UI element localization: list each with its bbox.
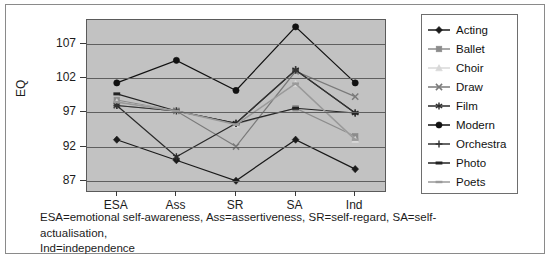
data-point-circle <box>173 57 179 63</box>
gridline <box>87 112 385 113</box>
series-layer <box>87 20 385 191</box>
legend-marker-star-icon <box>426 100 452 112</box>
y-tick-label: 97 <box>42 105 76 117</box>
legend-marker-plus-icon <box>426 138 452 150</box>
legend-label: Acting <box>456 24 488 36</box>
data-point-line <box>352 139 359 141</box>
legend: ActingBalletChoirDrawFilmModernOrchestra… <box>421 14 518 194</box>
legend-marker-triangle-icon <box>426 62 452 74</box>
gridline <box>87 44 385 45</box>
legend-marker-circle-icon <box>426 119 452 131</box>
caption-line-2: Ind=independence <box>40 241 470 257</box>
legend-item-ballet[interactable]: Ballet <box>426 39 517 58</box>
x-tick-mark <box>354 191 355 196</box>
legend-label: Choir <box>456 62 483 74</box>
data-point-line <box>436 180 443 182</box>
gridline <box>87 181 385 182</box>
series-orchestra <box>113 66 358 127</box>
chart-caption: ESA=emotional self-awareness, Ass=assert… <box>40 210 470 257</box>
data-point-cross <box>352 94 358 100</box>
data-point-dash <box>292 107 299 110</box>
data-point-diamond <box>436 26 443 33</box>
data-point-circle <box>233 87 239 93</box>
data-point-line <box>233 123 240 125</box>
legend-item-film[interactable]: Film <box>426 96 517 115</box>
x-tick-mark <box>116 191 117 196</box>
legend-item-orchestra[interactable]: Orchestra <box>426 134 517 153</box>
series-modern <box>114 24 359 94</box>
plot-area <box>86 19 386 192</box>
legend-marker-diamond-icon <box>426 24 452 36</box>
x-tick-mark <box>175 191 176 196</box>
data-point-diamond <box>292 136 299 143</box>
legend-label: Film <box>456 100 478 112</box>
gridline <box>87 147 385 148</box>
gridline <box>87 78 385 79</box>
y-tick-label: 92 <box>42 140 76 152</box>
y-tick-label: 87 <box>42 174 76 186</box>
y-tick-label: 107 <box>42 37 76 49</box>
y-tick-label: 102 <box>42 71 76 83</box>
y-axis-label: EQ <box>14 80 28 97</box>
legend-marker-cross-icon <box>426 81 452 93</box>
legend-item-choir[interactable]: Choir <box>426 58 517 77</box>
legend-label: Draw <box>456 81 483 93</box>
caption-line-1: ESA=emotional self-awareness, Ass=assert… <box>40 210 470 241</box>
legend-item-photo[interactable]: Photo <box>426 153 517 172</box>
legend-label: Ballet <box>456 43 485 55</box>
legend-label: Orchestra <box>456 138 507 150</box>
legend-marker-dash-icon <box>426 157 452 169</box>
legend-item-draw[interactable]: Draw <box>426 77 517 96</box>
legend-item-modern[interactable]: Modern <box>426 115 517 134</box>
data-point-line <box>292 82 299 84</box>
data-point-dash <box>113 92 120 95</box>
x-tick-mark <box>235 191 236 196</box>
data-point-circle <box>436 121 442 127</box>
legend-marker-square-icon <box>426 43 452 55</box>
data-point-diamond <box>113 136 120 143</box>
series-acting <box>113 136 358 184</box>
x-tick-mark <box>295 191 296 196</box>
legend-marker-line-icon <box>426 176 452 188</box>
data-point-square <box>436 46 442 52</box>
legend-label: Modern <box>456 119 495 131</box>
legend-item-acting[interactable]: Acting <box>426 20 517 39</box>
data-point-circle <box>114 80 120 86</box>
data-point-circle <box>293 24 299 30</box>
data-point-dash <box>436 161 443 164</box>
data-point-line <box>113 101 120 103</box>
legend-label: Photo <box>456 157 486 169</box>
legend-label: Poets <box>456 176 485 188</box>
data-point-plus <box>436 140 443 147</box>
data-point-circle <box>352 80 358 86</box>
legend-item-poets[interactable]: Poets <box>426 172 517 191</box>
figure-panel: EQ 107102979287 ESAAssSRSAInd ActingBall… <box>5 4 545 254</box>
data-point-diamond <box>352 166 359 173</box>
